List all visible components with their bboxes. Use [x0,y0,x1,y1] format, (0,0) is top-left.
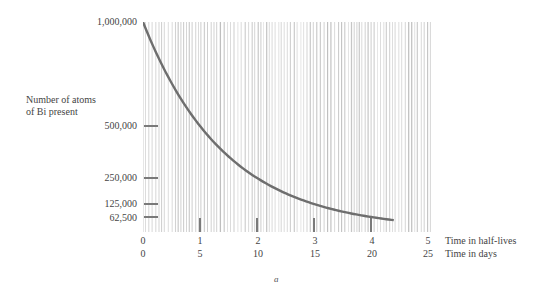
x-tick-halflife-5: 5 [418,235,438,246]
y-tick-label-125000: 125,000 [57,198,137,209]
x-tick-days-0: 0 [133,248,153,259]
y-tick-label-500000: 500,000 [57,120,137,131]
x-tick-halflife-2: 2 [248,235,268,246]
x-tick-days-20: 20 [362,248,382,259]
x-tick-halflife-1: 1 [190,235,210,246]
y-axis-title-line-2: of Bi present [26,106,96,118]
x-tick-halflife-4: 4 [362,235,382,246]
x-tick-days-10: 10 [248,248,268,259]
x-tick-halflife-3: 3 [305,235,325,246]
x-axis-title-half-lives: Time in half-lives [445,235,516,246]
decay-curve-plot [143,22,431,232]
x-tick-days-25: 25 [418,248,438,259]
y-tick-label-250000: 250,000 [57,172,137,183]
y-axis-title: Number of atoms of Bi present [26,94,96,118]
y-axis-title-line-1: Number of atoms [26,94,96,106]
plot-area [143,22,431,232]
x-tick-halflife-0: 0 [133,235,153,246]
x-tick-days-5: 5 [190,248,210,259]
x-axis-title-days: Time in days [445,248,497,259]
y-tick-label-1000000: 1,000,000 [57,16,137,27]
y-tick-label-62500: 62,500 [57,212,137,223]
x-tick-days-15: 15 [305,248,325,259]
figure-caption: a [274,274,279,284]
